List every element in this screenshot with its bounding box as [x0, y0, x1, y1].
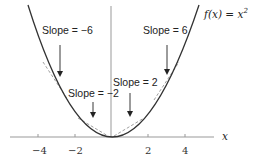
function-label: f(x) = x2 [203, 7, 248, 20]
tick-label-2: 2 [145, 145, 151, 156]
tick-label-neg4: −4 [32, 145, 47, 156]
slope-label-6: Slope = 6 [143, 24, 188, 36]
slope-label-neg6: Slope = −6 [42, 24, 93, 36]
tick-label-4: 4 [182, 145, 188, 156]
parabola-chart: −4 −2 2 4 x Slope = −6 Slope = −2 Slope … [0, 0, 253, 166]
x-axis-label: x [222, 130, 228, 142]
slope-label-neg2: Slope = −2 [68, 87, 119, 99]
tick-label-neg2: −2 [68, 145, 83, 156]
slope-label-2: Slope = 2 [113, 76, 158, 88]
